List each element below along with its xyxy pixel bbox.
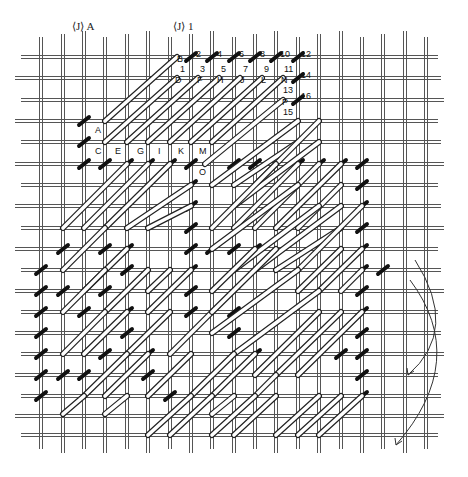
letter-label: O [199,167,206,177]
tent-stitch [100,245,110,253]
diagram-header: ⟨J⟩ 1 [173,20,194,32]
number-label: 13 [283,85,293,95]
letter-label: G [137,146,144,156]
long-stitch [148,270,191,312]
long-stitch [255,375,276,396]
long-stitch [212,396,255,435]
long-stitch [298,396,341,435]
tent-stitch [357,329,367,337]
tent-stitch [100,160,110,168]
number-label: 2 [196,49,201,59]
tent-stitch [357,350,367,358]
tent-stitch [378,266,388,274]
long-stitch [234,396,276,435]
letter-label: P [282,97,288,107]
long-stitch [212,396,234,414]
tent-stitch [122,329,132,337]
long-stitch [105,354,148,396]
tent-stitch [36,329,46,337]
long-stitch [127,312,170,354]
curved-arrow-icon [408,260,436,375]
number-label: 10 [280,49,290,59]
tent-stitch [122,266,132,274]
long-stitch [84,312,127,354]
long-stitch [105,396,127,414]
tent-stitch [79,160,89,168]
tent-stitch [186,245,196,253]
curved-arrow-icon [396,280,437,445]
long-stitch [319,396,362,435]
letter-label: E [115,146,121,156]
letter-label: A [95,125,101,135]
tent-stitch [79,308,89,316]
tent-stitch [357,287,367,295]
letter-label: B [177,54,183,64]
long-stitch [148,354,191,396]
tent-stitch [229,245,239,253]
tent-stitch [357,371,367,379]
tent-stitch [79,117,89,125]
tent-stitch [79,138,89,146]
tent-stitch [357,160,367,168]
letter-label: N [281,75,288,85]
number-label: 7 [243,64,248,74]
tent-stitch [336,350,346,358]
long-stitch [276,396,319,435]
number-label: 5 [221,64,226,74]
diagram-headers: ⟨J⟩ A⟨J⟩ 1 [72,20,194,32]
tent-stitch [229,53,239,61]
tent-stitch [58,287,68,295]
tent-stitch [357,181,367,189]
long-stitch [191,354,234,396]
tent-stitch [36,308,46,316]
long-stitch [84,354,127,396]
long-stitch [298,249,341,291]
letter-label: I [158,146,161,156]
tent-stitch [186,287,196,295]
long-stitch [170,396,212,435]
letter-label: K [178,146,184,156]
tent-stitch [58,245,68,253]
tent-stitch [186,224,196,232]
tent-stitch [36,392,46,400]
number-label: 6 [239,49,244,59]
letter-label: H [217,75,224,85]
number-label: 16 [301,91,311,101]
tent-stitch [58,371,68,379]
long-stitch [63,228,105,270]
tent-stitch [100,350,110,358]
long-stitch [148,396,191,435]
number-label: 3 [200,64,205,74]
number-label: 12 [301,49,311,59]
number-label: 9 [264,64,269,74]
long-stitch [63,396,84,414]
tent-stitch [250,53,260,61]
long-stitch [212,249,255,291]
long-stitch [170,312,212,354]
number-label: 1 [180,64,185,74]
number-label: 11 [284,64,293,74]
long-stitch [63,312,105,354]
number-label: 14 [301,70,311,80]
number-label: 8 [260,49,265,59]
tent-stitch [207,53,217,61]
long-stitch [148,270,170,291]
long-stitch [105,270,148,312]
canvas-grid [15,31,444,453]
tent-stitch [165,392,175,400]
tent-stitch [100,287,110,295]
tent-stitch [79,371,89,379]
tent-stitch [186,308,196,316]
tent-stitch [186,53,196,61]
tent-stitch [36,287,46,295]
long-stitch [319,249,362,291]
letter-label: C [95,146,102,156]
long-stitch [63,270,105,312]
letter-label: L [261,75,266,85]
tent-stitch [229,329,239,337]
tent-stitch [36,371,46,379]
diagram-header: ⟨J⟩ A [72,20,94,32]
tent-stitch [357,224,367,232]
long-stitch [212,354,255,396]
tent-stitch [186,160,196,168]
